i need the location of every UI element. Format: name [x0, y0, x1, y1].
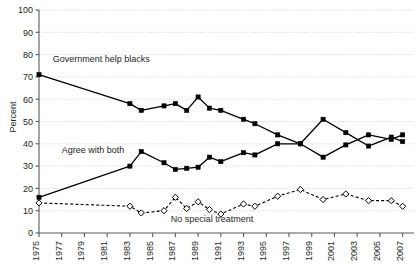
data-point-marker — [139, 150, 143, 154]
series-government-help-blacks — [37, 73, 405, 149]
x-tick-label: 2003 — [349, 241, 359, 261]
data-point-marker — [343, 191, 349, 197]
x-tick-label: 1999 — [304, 241, 314, 261]
data-point-marker — [207, 106, 211, 110]
data-point-marker — [241, 117, 245, 121]
x-tick-label: 1977 — [54, 241, 64, 261]
x-tick-label: 1983 — [122, 241, 132, 261]
data-point-marker — [219, 160, 223, 164]
data-point-marker — [297, 186, 303, 192]
y-tick-label: 90 — [23, 28, 33, 38]
grid-lines — [39, 10, 414, 211]
data-point-marker — [207, 155, 211, 159]
x-tick-label: 1989 — [190, 241, 200, 261]
x-tick-label: 2007 — [395, 241, 405, 261]
data-point-marker — [344, 131, 348, 135]
data-point-marker — [195, 199, 201, 205]
x-tick-label: 2001 — [326, 241, 336, 261]
data-point-marker — [321, 155, 325, 159]
data-point-marker — [219, 108, 223, 112]
x-tick-label: 1997 — [281, 241, 291, 261]
data-point-marker — [389, 137, 393, 141]
series-annotation-label: Agree with both — [62, 145, 125, 155]
data-point-marker — [240, 201, 246, 207]
data-point-marker — [185, 108, 189, 112]
data-point-marker — [298, 142, 302, 146]
data-point-marker — [401, 139, 405, 143]
series-annotation-label: No special treatment — [171, 214, 254, 224]
data-point-marker — [276, 133, 280, 137]
data-point-marker — [36, 200, 42, 206]
data-point-marker — [253, 153, 257, 157]
y-tick-label: 80 — [23, 50, 33, 60]
x-tick-label: 1991 — [213, 241, 223, 261]
y-tick-label: 30 — [23, 161, 33, 171]
y-tick-label: 40 — [23, 139, 33, 149]
data-point-marker — [400, 203, 406, 209]
data-point-marker — [401, 133, 405, 137]
data-point-marker — [196, 95, 200, 99]
x-tick-label: 1981 — [99, 241, 109, 261]
y-tick-label: 60 — [23, 95, 33, 105]
data-point-marker — [173, 102, 177, 106]
y-tick-label: 0 — [28, 228, 33, 238]
chart-container: 0102030405060708090100197519771979198119… — [0, 0, 416, 268]
series-no-special-treatment — [36, 186, 406, 217]
data-point-marker — [206, 206, 212, 212]
x-tick-label: 1995 — [258, 241, 268, 261]
data-point-marker — [37, 195, 41, 199]
data-point-marker — [365, 198, 371, 204]
data-point-marker — [275, 193, 281, 199]
data-point-marker — [139, 108, 143, 112]
x-tick-label: 1993 — [236, 241, 246, 261]
y-tick-label: 100 — [18, 5, 33, 15]
data-point-marker — [173, 167, 177, 171]
data-point-marker — [366, 144, 370, 148]
data-point-marker — [321, 117, 325, 121]
data-point-marker — [37, 73, 41, 77]
data-point-marker — [162, 104, 166, 108]
data-point-marker — [276, 142, 280, 146]
data-point-marker — [366, 133, 370, 137]
data-point-marker — [241, 151, 245, 155]
data-point-marker — [320, 196, 326, 202]
series-annotation-label: Government help blacks — [53, 54, 151, 64]
data-point-marker — [252, 203, 258, 209]
data-point-marker — [185, 166, 189, 170]
data-point-marker — [127, 203, 133, 209]
x-tick-label: 1987 — [167, 241, 177, 261]
data-point-marker — [128, 164, 132, 168]
annotations: Government help blacksAgree with bothNo … — [53, 54, 254, 223]
x-tick-label: 1975 — [31, 241, 41, 261]
data-point-marker — [388, 198, 394, 204]
x-tick-label: 2005 — [372, 241, 382, 261]
y-tick-label: 10 — [23, 206, 33, 216]
y-tick-label: 50 — [23, 117, 33, 127]
data-point-marker — [162, 161, 166, 165]
data-point-marker — [344, 143, 348, 147]
line-chart: 0102030405060708090100197519771979198119… — [0, 0, 416, 268]
data-point-marker — [196, 165, 200, 169]
series-agree-with-both — [37, 133, 405, 200]
y-tick-label: 70 — [23, 72, 33, 82]
y-axis-title: Percent — [8, 87, 18, 147]
y-tick-label: 20 — [23, 184, 33, 194]
x-tick-label: 1985 — [145, 241, 155, 261]
data-point-marker — [128, 102, 132, 106]
data-point-marker — [253, 122, 257, 126]
x-tick-label: 1979 — [76, 241, 86, 261]
